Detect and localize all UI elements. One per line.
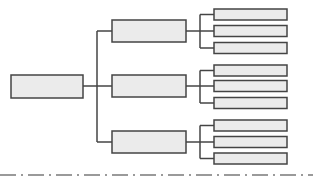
leaf-box-3-2 — [214, 137, 287, 148]
leaf-box-3-3 — [214, 153, 287, 164]
leaf-box-1-3 — [214, 43, 287, 54]
root-box — [11, 75, 83, 98]
boxes — [11, 9, 287, 164]
mid-box-1 — [112, 20, 186, 42]
mid-box-3 — [112, 131, 186, 153]
mid-box-2 — [112, 75, 186, 97]
leaf-box-1-1 — [214, 9, 287, 20]
tree-diagram — [0, 0, 313, 183]
leaf-box-2-2 — [214, 81, 287, 92]
leaf-box-2-3 — [214, 98, 287, 109]
leaf-box-1-2 — [214, 26, 287, 37]
leaf-box-3-1 — [214, 120, 287, 131]
leaf-box-2-1 — [214, 65, 287, 76]
